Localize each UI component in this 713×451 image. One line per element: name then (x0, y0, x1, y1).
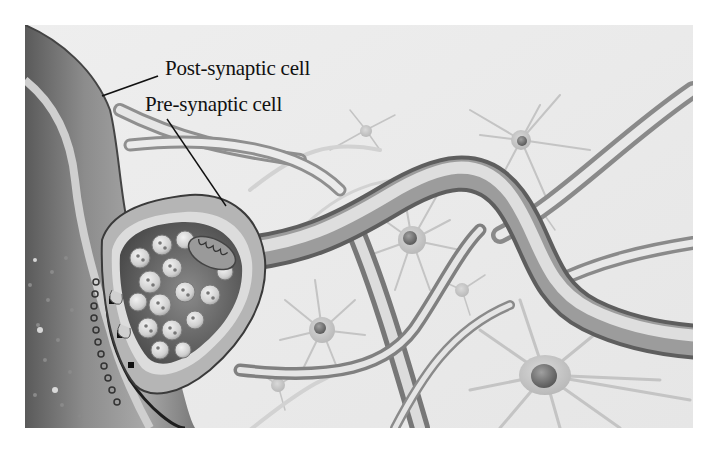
post-synaptic-label: Post-synaptic cell (165, 58, 310, 79)
illustration-canvas (0, 0, 713, 451)
synapse-illustration: Post-synaptic cell Pre-synaptic cell (0, 0, 713, 451)
pre-synaptic-label: Pre-synaptic cell (145, 94, 282, 115)
